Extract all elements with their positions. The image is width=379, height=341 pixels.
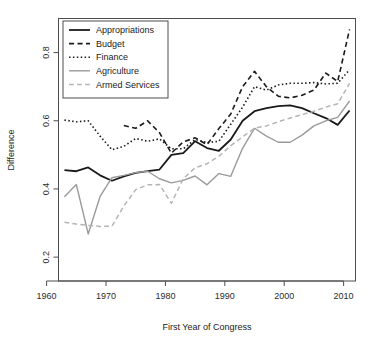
y-tick-label: 0.2: [41, 251, 51, 264]
x-tick-label: 2000: [274, 291, 294, 301]
y-axis-title: Difference: [6, 130, 16, 171]
x-tick-label: 1970: [96, 291, 116, 301]
legend-label-finance[interactable]: Finance: [96, 52, 128, 62]
series-line-armed-services: [64, 83, 349, 226]
y-tick-label: 0.4: [41, 183, 51, 196]
legend-label-armed-services[interactable]: Armed Services: [96, 80, 160, 90]
series-line-agriculture: [64, 101, 349, 234]
legend-label-appropriations[interactable]: Appropriations: [96, 25, 155, 35]
line-chart: 0.20.40.60.8 196019701980199020002010 Di…: [0, 0, 379, 341]
y-tick-label: 0.6: [41, 115, 51, 128]
x-axis: 196019701980199020002010: [37, 281, 354, 301]
series-line-appropriations: [64, 105, 349, 180]
chart-container: 0.20.40.60.8 196019701980199020002010 Di…: [0, 0, 379, 341]
x-tick-label: 1990: [215, 291, 235, 301]
y-axis: 0.20.40.60.8: [41, 46, 58, 263]
x-tick-label: 2010: [334, 291, 354, 301]
legend-label-agriculture[interactable]: Agriculture: [96, 66, 139, 76]
y-tick-label: 0.8: [41, 46, 51, 59]
x-axis-title: First Year of Congress: [162, 322, 252, 332]
x-tick-label: 1960: [37, 291, 57, 301]
legend-label-budget[interactable]: Budget: [96, 39, 125, 49]
x-tick-label: 1980: [155, 291, 175, 301]
chart-legend: AppropriationsBudgetFinanceAgricultureAr…: [63, 21, 168, 98]
